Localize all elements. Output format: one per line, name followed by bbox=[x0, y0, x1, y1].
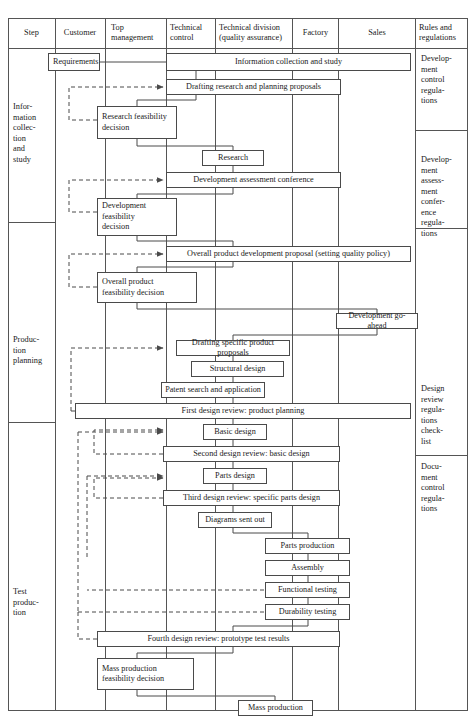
rule-label-document-control: Docu-mentcontrolregula-tions bbox=[418, 462, 468, 515]
node-functional-testing[interactable]: Functional testing bbox=[265, 582, 350, 598]
rule-label-development-control: Develop-mentcontrolregula-tions bbox=[418, 54, 468, 107]
node-information-collection-and-study[interactable]: Information collection and study bbox=[166, 53, 411, 71]
node-first-design-review[interactable]: First design review: product planning bbox=[75, 403, 411, 419]
node-drafting-research-and-planning-proposals[interactable]: Drafting research and planning proposals bbox=[166, 79, 341, 95]
node-overall-product-feasibility-decision[interactable]: Overall productfeasibility decision bbox=[97, 272, 197, 303]
header-factory: Factory bbox=[293, 18, 338, 48]
node-durability-testing[interactable]: Durability testing bbox=[265, 604, 350, 620]
header-customer: Customer bbox=[55, 18, 105, 48]
rule-separator-3 bbox=[415, 455, 468, 456]
node-requirements[interactable]: Requirements bbox=[48, 53, 100, 71]
node-parts-design[interactable]: Parts design bbox=[203, 468, 267, 484]
rule-label-development-assessment: Develop-mentassess-mentconfer-enceregula… bbox=[418, 155, 468, 239]
column-divider-step bbox=[55, 18, 56, 711]
node-development-feasibility-decision[interactable]: Developmentfeasibilitydecision bbox=[97, 198, 177, 236]
node-research-feasibility-decision[interactable]: Research feasibilitydecision bbox=[97, 106, 177, 139]
node-assembly[interactable]: Assembly bbox=[265, 560, 350, 576]
node-fourth-design-review[interactable]: Fourth design review: prototype test res… bbox=[97, 631, 340, 647]
header-technical-control: Technicalcontrol bbox=[167, 18, 215, 48]
header-bottom-rule bbox=[8, 48, 468, 49]
node-second-design-review[interactable]: Second design review: basic design bbox=[163, 446, 340, 462]
node-basic-design[interactable]: Basic design bbox=[203, 424, 267, 440]
node-parts-production[interactable]: Parts production bbox=[265, 538, 350, 554]
header-step: Step bbox=[8, 18, 55, 48]
header-top-management: Topmanagement bbox=[106, 18, 166, 48]
node-structural-design[interactable]: Structural design bbox=[191, 361, 284, 377]
step-separator-1 bbox=[8, 222, 55, 223]
node-overall-product-development-proposal[interactable]: Overall product development proposal (se… bbox=[166, 246, 411, 262]
header-technical-division: Technical division(quality assurance) bbox=[216, 18, 292, 48]
rule-separator-1 bbox=[415, 130, 468, 131]
node-mass-production[interactable]: Mass production bbox=[238, 700, 313, 716]
node-drafting-specific-product-proposals[interactable]: Drafting specific product proposals bbox=[176, 340, 290, 356]
step-label-test-production: Testproduc-tion bbox=[10, 587, 55, 619]
rule-label-design-review: Designreviewregula-tionscheck-list bbox=[418, 384, 468, 447]
header-rules-and-regulations: Rules andregulations bbox=[416, 18, 468, 48]
step-label-information-collection: Infor-mationcollec-tionandstudy bbox=[10, 102, 55, 165]
process-flowchart: Step Customer Topmanagement Technicalcon… bbox=[0, 0, 476, 719]
node-patent-search-and-application[interactable]: Patent search and application bbox=[161, 382, 265, 398]
node-development-assessment-conference[interactable]: Development assessment conference bbox=[166, 172, 341, 188]
header-sales: Sales bbox=[339, 18, 415, 48]
node-diagrams-sent-out[interactable]: Diagrams sent out bbox=[198, 512, 272, 528]
step-label-production-planning: Produc-tionplanning bbox=[10, 335, 55, 367]
node-mass-production-feasibility-decision[interactable]: Mass productionfeasibility decision bbox=[97, 658, 194, 690]
step-separator-2 bbox=[8, 422, 55, 423]
node-research[interactable]: Research bbox=[202, 150, 264, 166]
node-third-design-review[interactable]: Third design review: specific parts desi… bbox=[163, 490, 340, 506]
column-divider-sales bbox=[415, 18, 416, 711]
node-development-go-ahead[interactable]: Development go-ahead bbox=[336, 313, 418, 329]
